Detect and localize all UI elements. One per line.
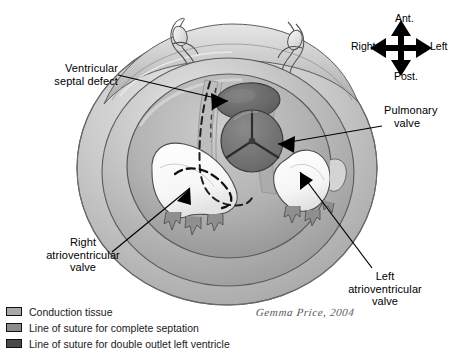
vsd-label-line2: septal defect <box>6 75 118 88</box>
compass-right-label: Right <box>351 40 376 52</box>
legend-swatch-complete-septation <box>6 323 22 332</box>
compass-posterior-label: Post. <box>394 70 418 82</box>
legend-item: Line of suture for complete septation <box>6 320 306 335</box>
label-pulmonary-valve: Pulmonary valve <box>384 104 450 129</box>
right-av-label-line3: valve <box>18 261 148 274</box>
legend-swatch-double-outlet <box>6 339 22 348</box>
left-av-label-line1: Left <box>320 270 450 283</box>
legend-label-double-outlet: Line of suture for double outlet left ve… <box>29 338 230 350</box>
right-av-label-line1: Right <box>18 236 148 249</box>
legend-swatch-conduction-tissue <box>6 307 22 316</box>
artist-signature: Gemma Price, 2004 <box>255 306 355 318</box>
legend-item: Line of suture for double outlet left ve… <box>6 336 306 351</box>
compass-left-label: Left <box>430 40 448 52</box>
label-ventricular-septal-defect: Ventricular septal defect <box>6 62 118 87</box>
legend-label-conduction-tissue: Conduction tissue <box>29 306 112 318</box>
pulmonary-valve-label-line2: valve <box>384 117 450 130</box>
pulmonary-valve <box>221 110 283 172</box>
right-av-label-line2: atrioventricular <box>18 249 148 262</box>
label-left-atrioventricular-valve: Left atrioventricular valve <box>320 270 450 308</box>
legend-label-complete-septation: Line of suture for complete septation <box>29 322 199 334</box>
left-av-label-line2: atrioventricular <box>320 283 450 296</box>
pulmonary-valve-label-line1: Pulmonary <box>384 104 450 117</box>
orientation-compass: Ant. Post. Left Right <box>356 12 450 84</box>
figure-canvas: Ventricular septal defect Pulmonary valv… <box>0 0 452 352</box>
compass-anterior-label: Ant. <box>395 12 414 24</box>
vsd-label-line1: Ventricular <box>6 62 118 75</box>
label-right-atrioventricular-valve: Right atrioventricular valve <box>18 236 148 274</box>
